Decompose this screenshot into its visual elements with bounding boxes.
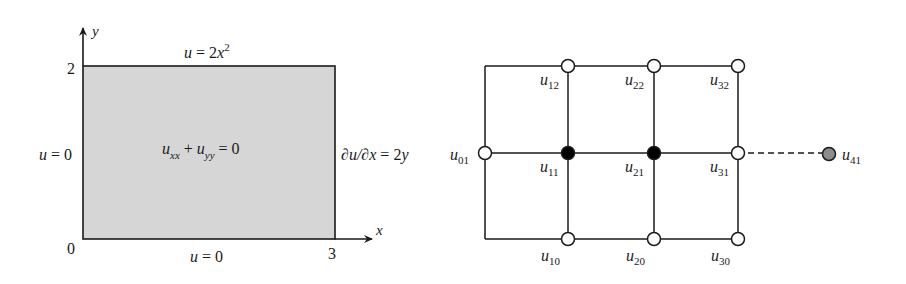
node-u01 <box>479 147 492 160</box>
bc-bottom: u = 0 <box>190 248 223 265</box>
y-axis-label: y <box>90 23 99 39</box>
label-u32: u32 <box>710 71 729 91</box>
x-max-tick: 3 <box>328 245 336 262</box>
node-u30 <box>732 233 745 246</box>
label-u22: u22 <box>625 71 644 91</box>
node-u12 <box>562 60 575 73</box>
bc-left: u = 0 <box>39 146 72 163</box>
node-u10 <box>562 233 575 246</box>
diagram-canvas: y x 2 0 3 u = 2x2 u = 0 u = 0 ∂u/∂x = 2y… <box>0 0 906 284</box>
label-u41: u41 <box>842 146 861 166</box>
node-u41-ghost <box>823 148 836 161</box>
node-u31 <box>732 147 745 160</box>
node-u32 <box>732 60 745 73</box>
label-u20: u20 <box>626 247 646 267</box>
bc-top: u = 2x2 <box>184 41 230 61</box>
node-u11 <box>562 147 575 160</box>
y-max-tick: 2 <box>67 60 75 77</box>
label-u11: u11 <box>540 158 559 178</box>
bc-right: ∂u/∂x = 2y <box>341 146 409 164</box>
label-u21: u21 <box>625 158 644 178</box>
node-u21 <box>648 147 661 160</box>
label-u12: u12 <box>540 71 559 91</box>
node-u20 <box>648 233 661 246</box>
label-u31: u31 <box>710 158 729 178</box>
left-panel: y x 2 0 3 u = 2x2 u = 0 u = 0 ∂u/∂x = 2y… <box>39 23 409 265</box>
label-u30: u30 <box>711 247 731 267</box>
label-u10: u10 <box>541 247 561 267</box>
x-axis-label: x <box>375 222 383 238</box>
node-u22 <box>648 60 661 73</box>
label-u01: u01 <box>450 146 469 166</box>
origin-tick: 0 <box>67 240 75 257</box>
